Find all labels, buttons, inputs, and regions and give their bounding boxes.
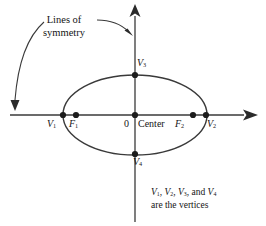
point-label-f1-subscript: 1 (75, 122, 78, 129)
point-v3 (132, 72, 138, 78)
point-label-v4: V4 (133, 157, 142, 168)
annotation-arrowhead-left-icon (11, 100, 20, 111)
vertices-caption-line2: are the vertices (151, 199, 216, 212)
ellipse-diagram: Lines of symmetry V1 F1 0 Center F2 V2 V… (0, 0, 266, 226)
point-label-v1-subscript: 1 (53, 122, 56, 129)
y-axis-arrowhead-icon (130, 4, 141, 17)
vertices-caption-line1: V1, V2, V3, and V4 (151, 186, 216, 199)
diagram-canvas (0, 0, 266, 226)
center-label: Center (138, 119, 165, 130)
lines-of-symmetry-label: Lines of symmetry (43, 13, 85, 40)
point-label-f2-subscript: 2 (181, 122, 184, 129)
lines-of-symmetry-line1: Lines of (43, 13, 85, 26)
point-label-f2: F2 (175, 119, 184, 130)
point-label-v3-subscript: 3 (143, 61, 146, 68)
caption-v2: V2 (165, 187, 174, 197)
point-v1 (60, 112, 66, 118)
point-label-v1: V1 (47, 119, 56, 130)
annotation-arrow-right (97, 20, 129, 32)
annotation-arrow-left (15, 22, 44, 100)
caption-v1: V1 (151, 187, 160, 197)
point-label-f1: F1 (69, 119, 78, 130)
point-label-v2-subscript: 2 (213, 122, 216, 129)
caption-v3: V3 (178, 187, 187, 197)
caption-sep-3: , and (187, 187, 208, 197)
point-label-v4-subscript: 4 (139, 160, 142, 167)
caption-v4: V4 (208, 187, 217, 197)
point-label-v2: V2 (207, 119, 216, 130)
point-f2 (190, 112, 196, 118)
lines-of-symmetry-line2: symmetry (43, 26, 85, 39)
vertices-caption: V1, V2, V3, and V4 are the vertices (151, 186, 216, 212)
point-label-v3: V3 (137, 58, 146, 69)
x-axis-arrowhead-icon (243, 110, 258, 121)
origin-label: 0 (124, 119, 129, 130)
